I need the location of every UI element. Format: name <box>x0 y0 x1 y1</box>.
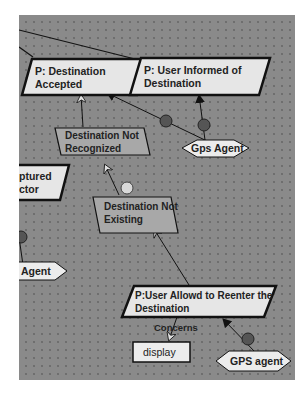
goal-label[interactable]: P: User Informed of Destination <box>144 64 241 90</box>
goal-label[interactable]: P:User Allowd to Reenter the Destination <box>135 289 272 315</box>
refinement-node <box>121 182 133 194</box>
agent-label[interactable]: Agent <box>21 265 51 278</box>
obstacle-label[interactable]: Destination Not Recognized <box>65 129 139 155</box>
responsibility-node <box>160 115 172 127</box>
agent-label[interactable]: Gps Agent <box>191 142 244 155</box>
goal-label[interactable]: P: Destination Accepted <box>35 65 106 91</box>
obstacle-label[interactable]: Destination Not Existing <box>104 200 178 226</box>
responsibility-node <box>19 231 27 243</box>
object-label[interactable]: display <box>143 346 176 359</box>
relation-label-concerns: Concerns <box>154 321 198 334</box>
obstruction-link <box>81 95 83 127</box>
agent-label[interactable]: GPS agent <box>230 355 283 368</box>
link-line <box>19 47 33 57</box>
responsibility-node <box>242 333 254 345</box>
goal-label[interactable]: ptured ctor <box>19 170 52 196</box>
responsibility-link <box>199 95 205 140</box>
diagram-canvas[interactable]: P: Destination Accepted P: User Informed… <box>19 15 295 380</box>
responsibility-node <box>198 119 210 131</box>
obstruction-link <box>154 229 189 285</box>
link-line <box>19 30 139 60</box>
refinement-link <box>105 165 119 195</box>
